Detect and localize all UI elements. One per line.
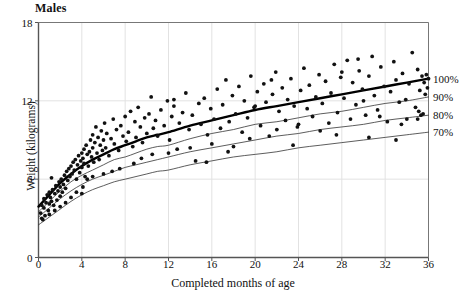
gridlines — [39, 23, 429, 258]
x-tick-label: 4 — [79, 258, 85, 270]
chart-container: Males Weight (kilograms) Completed month… — [0, 0, 467, 303]
scatter-plot-canvas — [0, 0, 467, 303]
curve-label-70pct: 70% — [433, 126, 453, 138]
y-axis-label: Weight (kilograms) — [25, 66, 37, 226]
curve-label-90pct: 90% — [433, 91, 453, 103]
data-points — [39, 51, 431, 222]
x-tick-label: 16 — [206, 258, 217, 270]
x-tick-label: 32 — [380, 258, 391, 270]
curve-label-100pct: 100% — [433, 73, 459, 85]
x-tick-label: 24 — [293, 258, 304, 270]
y-tick-label: 0 — [11, 252, 33, 264]
x-tick-label: 8 — [122, 258, 128, 270]
x-axis-label: Completed months of age — [38, 276, 428, 291]
x-tick-label: 12 — [163, 258, 174, 270]
x-tick-label: 28 — [336, 258, 347, 270]
y-tick-label: 6 — [11, 173, 33, 185]
x-tick-label: 36 — [423, 258, 434, 270]
y-tick-label: 12 — [11, 95, 33, 107]
x-tick-label: 20 — [250, 258, 261, 270]
x-tick-label: 0 — [36, 258, 42, 270]
curve-label-80pct: 80% — [433, 109, 453, 121]
y-tick-label: 18 — [11, 17, 33, 29]
